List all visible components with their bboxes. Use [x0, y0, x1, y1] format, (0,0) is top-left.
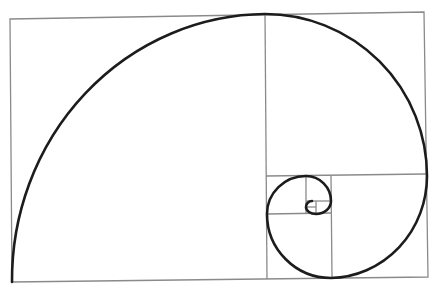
divider-main-vertical — [265, 14, 267, 279]
golden-spiral-diagram — [0, 0, 436, 293]
divider-lower-vertical — [331, 176, 332, 278]
diagram-svg — [0, 0, 436, 293]
outer-golden-rectangle — [10, 12, 428, 282]
golden-spiral-curve — [12, 14, 427, 282]
divider-right-horizontal — [266, 174, 426, 176]
